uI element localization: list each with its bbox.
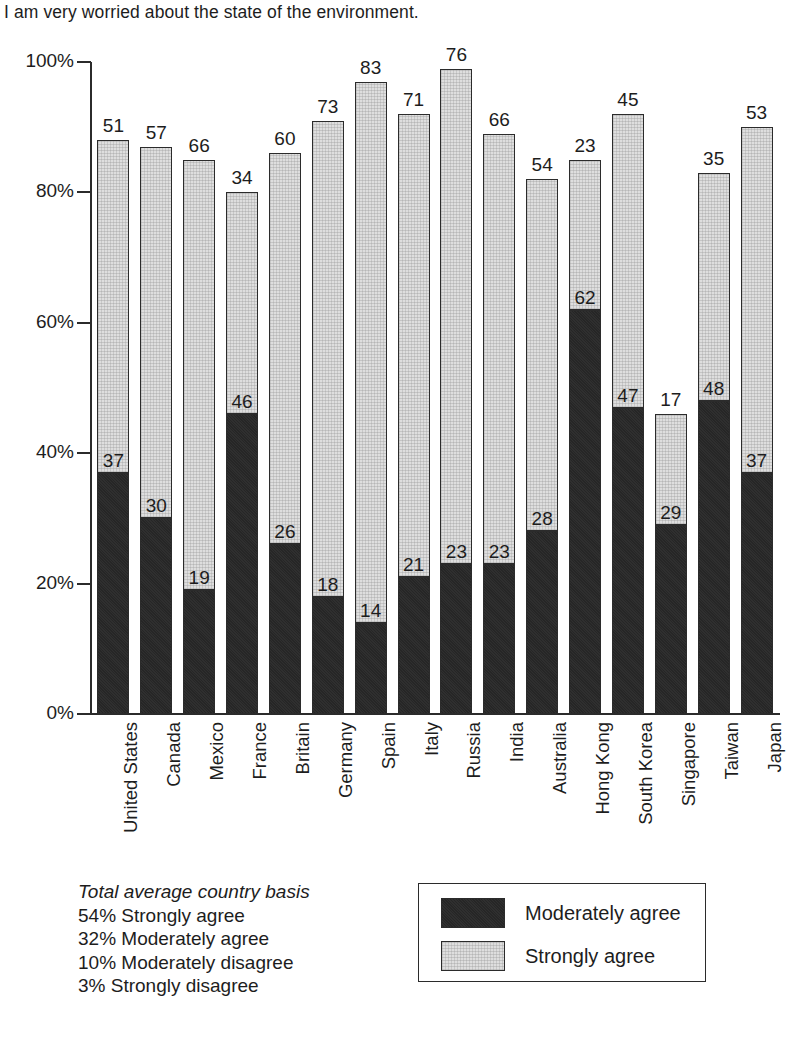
bar-segment-strongly-agree bbox=[183, 160, 215, 590]
x-axis-label-united-states: United States bbox=[120, 722, 142, 833]
footnote-heading: Total average country basis bbox=[78, 880, 310, 904]
chart-title: I am very worried about the state of the… bbox=[4, 2, 419, 23]
x-axis-label-hong-kong: Hong Kong bbox=[592, 722, 614, 815]
legend-item-label: Strongly agree bbox=[525, 945, 655, 968]
bar-value-label-moderately-agree: 28 bbox=[507, 509, 577, 528]
bar-value-label-strongly-agree: 76 bbox=[421, 45, 491, 64]
x-axis-label-singapore: Singapore bbox=[678, 722, 700, 806]
bar-segment-moderately-agree bbox=[698, 401, 730, 714]
bar-australia[interactable]: 5428 bbox=[526, 179, 558, 714]
bar-value-label-strongly-agree: 71 bbox=[379, 90, 449, 109]
bar-value-label-moderately-agree: 46 bbox=[207, 392, 277, 411]
y-axis-label: 80% bbox=[2, 180, 74, 202]
bar-united-states[interactable]: 5137 bbox=[97, 140, 129, 714]
bar-segment-strongly-agree bbox=[741, 127, 773, 473]
y-axis-tick bbox=[77, 191, 91, 193]
y-axis-tick bbox=[77, 61, 91, 63]
bar-segment-strongly-agree bbox=[526, 179, 558, 531]
x-axis-label-india: India bbox=[506, 722, 528, 762]
y-axis-tick bbox=[77, 713, 91, 715]
y-axis-label: 100% bbox=[2, 50, 74, 72]
legend-item-label: Moderately agree bbox=[525, 902, 681, 925]
bar-segment-moderately-agree bbox=[398, 577, 430, 714]
bar-canada[interactable]: 5730 bbox=[140, 147, 172, 714]
bar-value-label-moderately-agree: 37 bbox=[722, 451, 790, 470]
footnote-line: 3% Strongly disagree bbox=[78, 974, 310, 998]
legend-swatch-icon bbox=[441, 898, 505, 928]
footnote: Total average country basis 54% Strongly… bbox=[78, 880, 310, 998]
bar-segment-strongly-agree bbox=[226, 192, 258, 414]
y-axis-tick bbox=[77, 322, 91, 324]
bar-value-label-moderately-agree: 62 bbox=[550, 288, 620, 307]
bar-value-label-moderately-agree: 29 bbox=[636, 503, 706, 522]
bar-spain[interactable]: 8314 bbox=[355, 82, 387, 714]
bar-segment-strongly-agree bbox=[483, 134, 515, 564]
bar-segment-moderately-agree bbox=[483, 564, 515, 714]
x-axis-label-france: France bbox=[249, 722, 271, 780]
bar-value-label-moderately-agree: 23 bbox=[464, 542, 534, 561]
bar-segment-strongly-agree bbox=[398, 114, 430, 577]
bar-singapore[interactable]: 1729 bbox=[655, 414, 687, 714]
bar-segment-moderately-agree bbox=[269, 544, 301, 714]
y-axis-label: 60% bbox=[2, 311, 74, 333]
bar-segment-strongly-agree bbox=[612, 114, 644, 407]
bar-value-label-strongly-agree: 60 bbox=[250, 129, 320, 148]
bar-value-label-moderately-agree: 18 bbox=[293, 575, 363, 594]
bar-hong-kong[interactable]: 2362 bbox=[569, 160, 601, 714]
footnote-line: 54% Strongly agree bbox=[78, 904, 310, 928]
x-axis-label-germany: Germany bbox=[335, 722, 357, 798]
bar-segment-moderately-agree bbox=[140, 518, 172, 714]
legend-swatch-icon bbox=[441, 941, 505, 971]
bar-segment-strongly-agree bbox=[312, 121, 344, 597]
x-axis-label-spain: Spain bbox=[378, 722, 400, 769]
bar-india[interactable]: 6623 bbox=[483, 134, 515, 714]
bar-segment-strongly-agree bbox=[97, 140, 129, 473]
chart-legend: Moderately agree Strongly agree bbox=[418, 883, 706, 982]
footnote-line: 10% Moderately disagree bbox=[78, 951, 310, 975]
bar-britain[interactable]: 6026 bbox=[269, 153, 301, 714]
bar-value-label-strongly-agree: 83 bbox=[336, 58, 406, 77]
y-axis-tick bbox=[77, 583, 91, 585]
x-axis-label-japan: Japan bbox=[764, 722, 786, 772]
bar-south-korea[interactable]: 4547 bbox=[612, 114, 644, 714]
bar-germany[interactable]: 7318 bbox=[312, 121, 344, 714]
bar-value-label-strongly-agree: 45 bbox=[593, 90, 663, 109]
bar-value-label-moderately-agree: 48 bbox=[679, 379, 749, 398]
bar-value-label-strongly-agree: 73 bbox=[293, 97, 363, 116]
bar-value-label-moderately-agree: 30 bbox=[121, 496, 191, 515]
bar-segment-strongly-agree bbox=[140, 147, 172, 519]
bar-taiwan[interactable]: 3548 bbox=[698, 173, 730, 714]
bar-segment-moderately-agree bbox=[655, 525, 687, 714]
bar-japan[interactable]: 5337 bbox=[741, 127, 773, 714]
bar-italy[interactable]: 7121 bbox=[398, 114, 430, 714]
bar-segment-moderately-agree bbox=[183, 590, 215, 714]
bar-value-label-strongly-agree: 66 bbox=[464, 110, 534, 129]
x-axis-label-australia: Australia bbox=[549, 722, 571, 794]
bar-value-label-moderately-agree: 37 bbox=[78, 451, 148, 470]
bar-segment-moderately-agree bbox=[440, 564, 472, 714]
bar-value-label-strongly-agree: 66 bbox=[164, 136, 234, 155]
bar-segment-moderately-agree bbox=[612, 408, 644, 714]
bar-segment-moderately-agree bbox=[569, 310, 601, 714]
bar-segment-moderately-agree bbox=[526, 531, 558, 714]
y-axis-label: 20% bbox=[2, 572, 74, 594]
x-axis-label-south-korea: South Korea bbox=[635, 722, 657, 825]
legend-item-moderately-agree: Moderately agree bbox=[441, 898, 681, 928]
bar-segment-moderately-agree bbox=[741, 473, 773, 714]
x-axis-label-canada: Canada bbox=[163, 722, 185, 787]
bar-russia[interactable]: 7623 bbox=[440, 69, 472, 714]
y-axis-label: 40% bbox=[2, 441, 74, 463]
y-axis-label: 0% bbox=[2, 702, 74, 724]
legend-item-strongly-agree: Strongly agree bbox=[441, 941, 655, 971]
bar-value-label-moderately-agree: 26 bbox=[250, 522, 320, 541]
bar-value-label-strongly-agree: 34 bbox=[207, 168, 277, 187]
bar-value-label-strongly-agree: 35 bbox=[679, 149, 749, 168]
bar-value-label-moderately-agree: 14 bbox=[336, 601, 406, 620]
bar-mexico[interactable]: 6619 bbox=[183, 160, 215, 714]
bar-value-label-strongly-agree: 54 bbox=[507, 155, 577, 174]
bar-france[interactable]: 3446 bbox=[226, 192, 258, 714]
bar-segment-strongly-agree bbox=[269, 153, 301, 544]
bar-segment-strongly-agree bbox=[440, 69, 472, 565]
bar-value-label-strongly-agree: 53 bbox=[722, 103, 790, 122]
bar-segment-strongly-agree bbox=[355, 82, 387, 623]
